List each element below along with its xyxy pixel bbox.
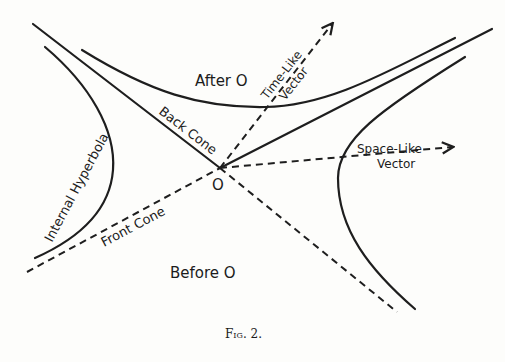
- origin-label: O: [212, 176, 224, 194]
- figure-caption: Fig. 2.: [225, 327, 262, 341]
- right-hyperbola: [338, 57, 465, 309]
- time-like-vector-arrow: [220, 24, 332, 168]
- front-cone-right-line: [220, 168, 397, 312]
- space-like-line1: Space-Like: [357, 142, 422, 156]
- before-o-label: Before O: [170, 264, 236, 282]
- front-cone-label: Front Cone: [98, 203, 167, 249]
- back-cone-label: Back Cone: [156, 103, 220, 157]
- light-cone-diagram: After O Before O O Back Cone Front Cone …: [0, 0, 505, 362]
- back-cone-left-line: [33, 24, 220, 168]
- space-like-line2: Vector: [377, 157, 415, 171]
- internal-hyperbola-label: Internal Hyperbola: [41, 130, 111, 244]
- after-o-label: After O: [195, 72, 248, 90]
